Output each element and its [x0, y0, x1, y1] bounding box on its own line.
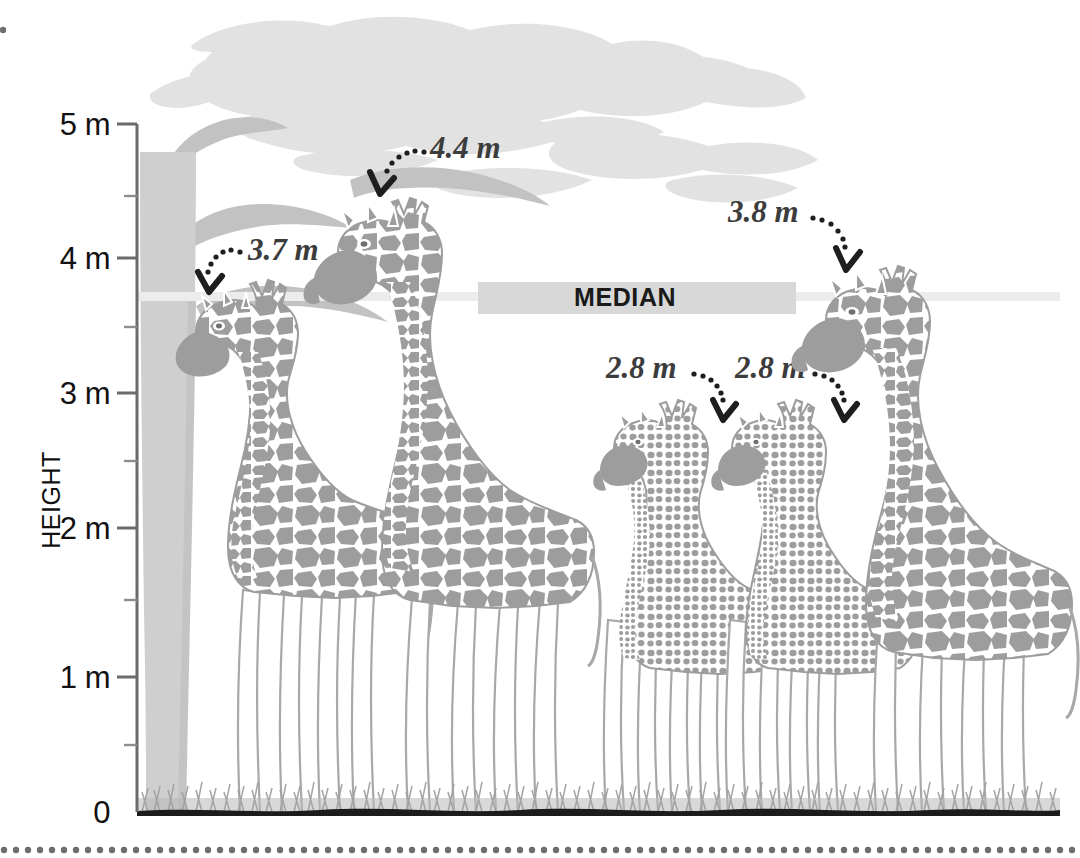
- y-tick-label-5m: 5 m: [60, 107, 110, 142]
- y-tick-label-0: 0: [93, 795, 110, 830]
- median-label: MEDIAN: [574, 283, 676, 311]
- chart-canvas: MEDIAN 3.7 m: [0, 0, 1080, 858]
- y-axis-title: HEIGHT: [37, 451, 65, 548]
- y-tick-label-1m: 1 m: [60, 660, 110, 695]
- y-tick-label-2m: 2 m: [60, 511, 110, 546]
- callout-label-5: 3.8 m: [727, 194, 799, 229]
- callout-label-3: 2.8 m: [605, 350, 677, 385]
- y-tick-label-3m: 3 m: [60, 376, 110, 411]
- callout-label-2: 4.4 m: [429, 130, 501, 165]
- callout-label-1: 3.7 m: [247, 232, 319, 267]
- y-tick-label-4m: 4 m: [60, 241, 110, 276]
